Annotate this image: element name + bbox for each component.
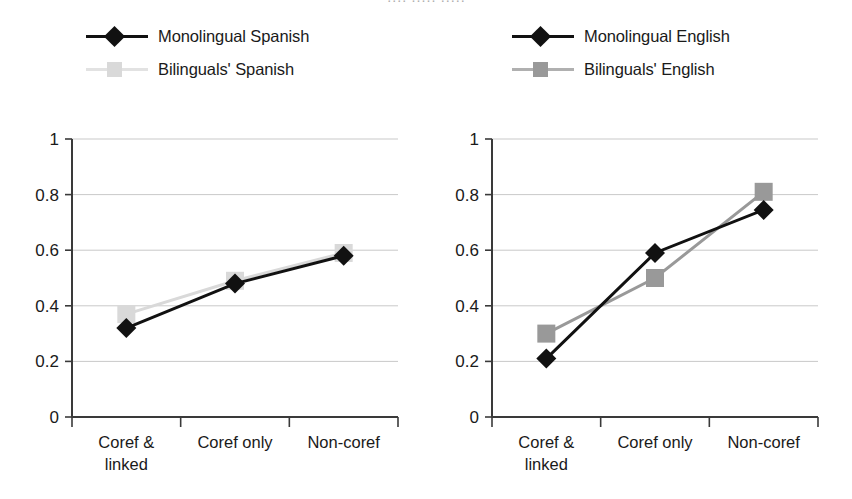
plot-area-spanish: 00.20.40.60.81Coref &linkedCoref onlyNon… [0,0,426,499]
y-axis-tick-label: 0.4 [35,297,59,316]
x-axis-category-label: Coref & [518,433,574,451]
y-axis-tick-label: 1 [470,130,479,149]
y-axis-tick-label: 0.6 [455,241,479,260]
x-axis-category-label: Coref only [617,433,693,451]
chart-svg-english: 00.20.40.60.81Coref &linkedCoref onlyNon… [426,0,852,499]
x-axis-category-label: linked [105,455,148,473]
panel-spanish: Monolingual Spanish Bilinguals' Spanish … [0,0,426,499]
y-axis-tick-label: 0.6 [35,241,59,260]
panel-english: Monolingual English Bilinguals' English … [426,0,852,499]
data-point-diamond [754,200,774,220]
data-point-square [646,269,664,287]
two-panel-line-chart-figure: Monolingual Spanish Bilinguals' Spanish … [0,0,852,499]
y-axis-tick-label: 0 [470,408,479,427]
x-axis-category-label: Non-coref [307,433,380,451]
plot-area-english: 00.20.40.60.81Coref &linkedCoref onlyNon… [426,0,852,499]
y-axis-tick-label: 0.2 [455,352,479,371]
x-axis-category-label: linked [525,455,568,473]
x-axis-category-label: Non-coref [727,433,800,451]
data-point-square [537,325,555,343]
y-axis-tick-label: 0.8 [455,186,479,205]
y-axis-tick-label: 1 [50,130,59,149]
data-point-square [755,183,773,201]
y-axis-tick-label: 0 [50,408,59,427]
x-axis-category-label: Coref only [197,433,273,451]
chart-svg-spanish: 00.20.40.60.81Coref &linkedCoref onlyNon… [0,0,426,499]
y-axis-tick-label: 0.2 [35,352,59,371]
x-axis-category-label: Coref & [98,433,154,451]
y-axis-tick-label: 0.8 [35,186,59,205]
y-axis-tick-label: 0.4 [455,297,479,316]
